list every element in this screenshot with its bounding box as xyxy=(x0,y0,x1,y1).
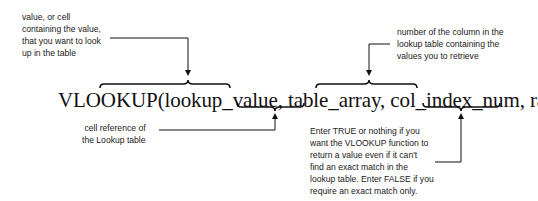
arrow-col-index-num xyxy=(369,44,390,73)
brace-table-array xyxy=(237,103,304,111)
brace-range-lookup xyxy=(423,103,500,111)
brace-col-index-num xyxy=(316,80,417,88)
brace-lookup-value xyxy=(100,80,230,88)
arrow-lookup-value xyxy=(110,38,188,73)
arrow-table-array xyxy=(159,116,275,130)
connector-lines xyxy=(0,0,538,201)
arrow-range-lookup xyxy=(435,116,461,162)
